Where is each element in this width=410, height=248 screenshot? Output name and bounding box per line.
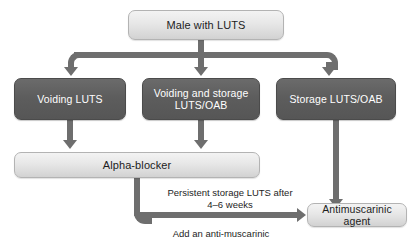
arrowhead-voiding-to-alpha	[63, 140, 77, 149]
node-storage-luts-oab[interactable]: Storage LUTS/OAB	[276, 78, 396, 120]
node-voiding-luts-label: Voiding LUTS	[37, 93, 102, 105]
connector-voiding-storage-to-alpha	[198, 120, 204, 142]
node-alpha-blocker-label: Alpha-blocker	[103, 159, 172, 172]
node-antimuscarinic-agent[interactable]: Antimuscarinic agent	[307, 203, 407, 227]
caption-add-anti-muscarinic: Add an anti-muscarinic	[146, 228, 296, 240]
node-voiding-and-storage-label-line1: Voiding and storage	[154, 87, 249, 99]
connector-voiding-to-alpha	[67, 120, 73, 142]
connector-storage-to-antimuscarinic	[333, 120, 339, 201]
node-voiding-and-storage[interactable]: Voiding and storage LUTS/OAB	[142, 78, 260, 120]
node-voiding-and-storage-label-line2: LUTS/OAB	[175, 99, 228, 111]
node-male-with-luts-label: Male with LUTS	[166, 19, 245, 32]
node-male-with-luts[interactable]: Male with LUTS	[128, 10, 284, 40]
connector-alpha-to-antimuscarinic	[140, 212, 299, 218]
node-voiding-luts[interactable]: Voiding LUTS	[14, 78, 126, 120]
caption-persistent-storage-line2: 4–6 weeks	[145, 199, 315, 211]
node-antimuscarinic-agent-label: Antimuscarinic agent	[308, 203, 406, 228]
node-alpha-blocker[interactable]: Alpha-blocker	[14, 152, 260, 178]
arrowhead-to-storage-luts	[322, 67, 336, 76]
caption-persistent-storage-line1: Persistent storage LUTS after	[145, 187, 315, 199]
node-storage-luts-oab-label: Storage LUTS/OAB	[289, 93, 382, 105]
arrowhead-to-voiding-and-storage	[194, 67, 208, 76]
flowchart-canvas: Male with LUTS Voiding LUTS Voiding and …	[0, 0, 410, 248]
caption-persistent-storage: Persistent storage LUTS after 4–6 weeks	[145, 187, 315, 211]
arrowhead-voiding-storage-to-alpha	[194, 140, 208, 149]
arrowhead-to-voiding-luts	[64, 67, 78, 76]
